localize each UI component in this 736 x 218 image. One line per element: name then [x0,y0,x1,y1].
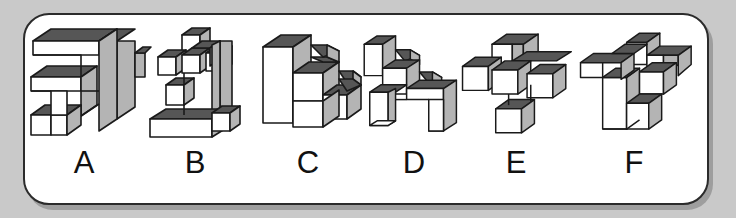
shape-option-b[interactable]: B [136,19,254,147]
shape-option-c[interactable]: C [249,19,367,147]
shape-label-f: F [575,145,693,181]
shape-f-drawing [575,19,693,147]
shape-b-drawing [136,19,254,147]
shape-option-f[interactable]: F [575,19,693,147]
figure-canvas: A [0,0,736,218]
options-row: A [23,13,709,205]
shape-label-e: E [457,145,575,181]
shape-a-drawing [25,19,143,147]
shape-c-drawing [249,19,367,147]
shape-label-b: B [136,145,254,181]
shape-label-a: A [25,145,143,181]
shape-label-c: C [249,145,367,181]
shape-d-drawing [355,19,473,147]
shape-label-d: D [355,145,473,181]
shape-option-a[interactable]: A [25,19,143,147]
shape-option-d[interactable]: D [355,19,473,147]
shape-e-drawing [457,19,575,147]
shape-option-e[interactable]: E [457,19,575,147]
